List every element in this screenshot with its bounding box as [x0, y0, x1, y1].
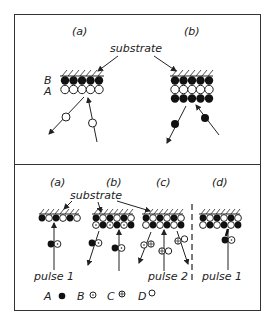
top-label-a: (a)	[72, 25, 87, 38]
substrate-arrow-b	[154, 56, 176, 71]
crossed-circle-icon	[119, 291, 125, 297]
filled-circle-icon	[59, 293, 66, 300]
substrate-arrow-a	[98, 56, 118, 71]
legend-key-D: D	[138, 290, 146, 303]
top-substrate-label: substrate	[110, 42, 162, 55]
bottom-label-a: (a)	[50, 176, 65, 189]
bottom-substrate-label: substrate	[70, 189, 122, 202]
layer-label-A: A	[43, 85, 52, 98]
bottom-d: pulse 1	[199, 209, 242, 283]
bottom-label-d: (d)	[212, 176, 228, 189]
top-b-stack	[167, 70, 219, 143]
legend-key-C: C	[107, 290, 115, 303]
bottom-b	[88, 209, 134, 271]
bottom-a: pulse 1	[33, 209, 80, 283]
legend-key-B: B	[77, 290, 85, 303]
diagram-canvas: (a) (b) substrate B	[0, 0, 274, 320]
top-panel: (a) (b) substrate B	[43, 25, 219, 143]
pulse-label-c: pulse 2	[147, 270, 188, 283]
bottom-label-c: (c)	[156, 176, 171, 189]
pulse-label-a: pulse 1	[33, 270, 74, 283]
top-a-stack: B A	[43, 70, 104, 142]
legend: A B C D	[43, 290, 155, 303]
pulse-label-d: pulse 1	[201, 270, 242, 283]
bottom-label-b: (b)	[106, 176, 122, 189]
bottom-c: pulse 2	[139, 209, 188, 283]
layer-B	[61, 76, 103, 84]
legend-key-A: A	[43, 290, 52, 303]
layer-A	[61, 85, 103, 93]
open-circle-icon	[149, 290, 155, 296]
bottom-panel: (a) (b) (c) (d) substrate	[33, 176, 242, 303]
dotted-circle-icon	[90, 292, 96, 298]
figure-frame	[15, 15, 261, 311]
top-label-b: (b)	[184, 25, 200, 38]
